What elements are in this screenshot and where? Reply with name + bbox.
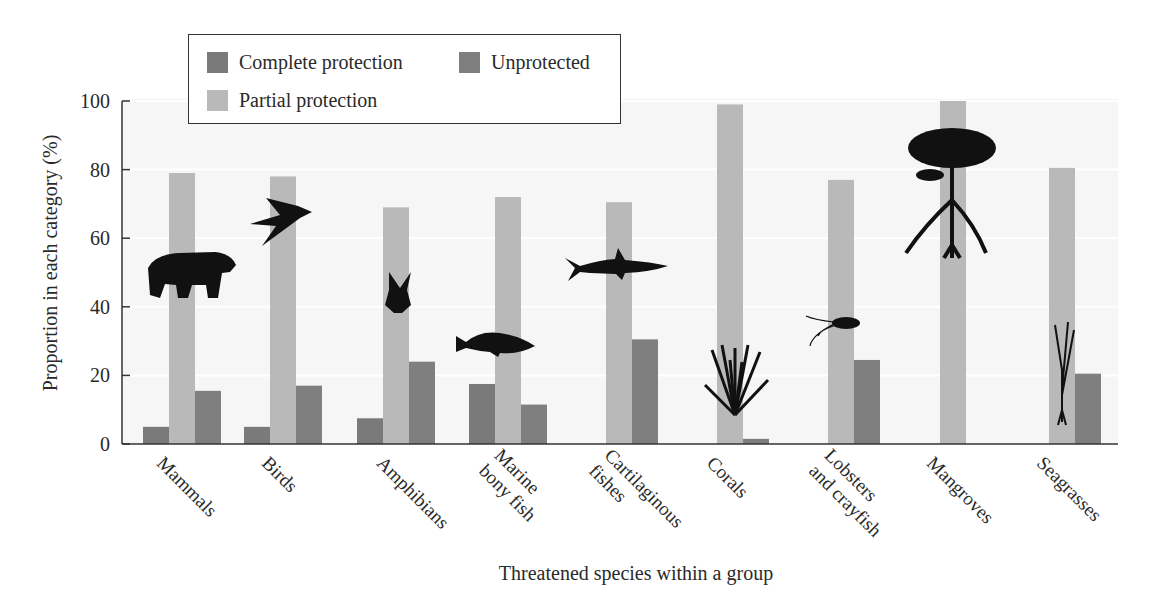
bar (357, 418, 383, 444)
x-tick-label: Mammals (153, 452, 222, 521)
x-tick-label: Corals (703, 452, 753, 502)
x-tick-label: Cartilaginousfishes (585, 444, 688, 547)
bar (743, 439, 769, 444)
svg-text:Birds: Birds (258, 452, 302, 496)
legend-label: Partial protection (239, 89, 377, 112)
bar (828, 180, 854, 444)
y-tick-label: 100 (80, 90, 110, 112)
legend-label: Complete protection (239, 51, 403, 74)
x-tick-label: Lobstersand crayfish (805, 444, 902, 541)
svg-text:Corals: Corals (703, 452, 753, 502)
x-tick-label: Seagrasses (1033, 452, 1106, 525)
bar (521, 405, 547, 444)
legend-item-complete-protection: Complete protection (207, 51, 403, 74)
x-tick-label: Mangroves (923, 452, 998, 527)
svg-text:Mammals: Mammals (153, 452, 222, 521)
bar (606, 202, 632, 444)
x-axis-title: Threatened species within a group (499, 562, 773, 585)
bar (143, 427, 169, 444)
y-tick-label: 60 (90, 227, 110, 249)
legend-swatch-unprotected (459, 52, 480, 73)
legend-item-partial-protection: Partial protection (207, 89, 377, 112)
y-tick-label: 20 (90, 364, 110, 386)
svg-text:Mangroves: Mangroves (923, 452, 998, 527)
legend-item-unprotected: Unprotected (459, 51, 590, 74)
y-axis-title: Proportion in each category (%) (39, 135, 62, 392)
x-tick-label: Birds (258, 452, 302, 496)
bar (632, 339, 658, 444)
bar (1075, 374, 1101, 444)
bar (409, 362, 435, 444)
bar (854, 360, 880, 444)
y-tick-label: 0 (100, 433, 110, 455)
svg-text:Amphibians: Amphibians (373, 452, 454, 533)
svg-text:Seagrasses: Seagrasses (1033, 452, 1106, 525)
legend-swatch-partial (207, 90, 228, 111)
legend-label: Unprotected (491, 51, 590, 74)
y-tick-label: 80 (90, 159, 110, 181)
bar (495, 197, 521, 444)
legend: Complete protection Unprotected Partial … (188, 34, 621, 124)
bar-chart: 020406080100Proportion in each category … (0, 0, 1170, 608)
bar (169, 173, 195, 444)
bar (296, 386, 322, 444)
bar (383, 207, 409, 444)
x-tick-label: Marinebony fish (475, 444, 556, 525)
bar (244, 427, 270, 444)
legend-swatch-complete (207, 52, 228, 73)
bar (469, 384, 495, 444)
x-tick-label: Amphibians (373, 452, 454, 533)
y-tick-label: 40 (90, 296, 110, 318)
bar (195, 391, 221, 444)
